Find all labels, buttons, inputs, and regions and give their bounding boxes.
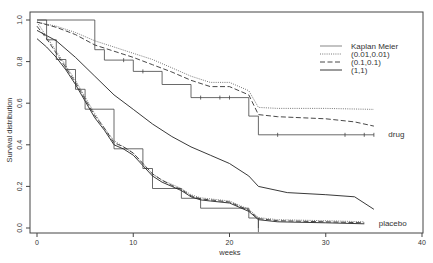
y-tick-label: 1.0 <box>16 15 23 25</box>
annotation-drug: drug <box>388 130 404 139</box>
x-tick-label: 10 <box>129 239 137 246</box>
y-tick-label: 0.4 <box>16 140 23 150</box>
y-axis: 0.00.20.40.60.81.0 <box>16 15 30 233</box>
legend: Kaplan Meier(0.01,0.01)(0.1,0.1)(1,1) <box>320 42 398 75</box>
series-line <box>37 22 364 222</box>
y-tick-label: 0.6 <box>16 98 23 108</box>
series-line <box>37 30 374 209</box>
x-tick-label: 40 <box>418 239 426 246</box>
series-line <box>37 20 258 228</box>
legend-label: (1,1) <box>351 66 368 75</box>
x-tick-label: 0 <box>35 239 39 246</box>
x-tick-label: 20 <box>226 239 234 246</box>
x-axis-title: weeks <box>218 248 241 257</box>
x-axis: 010203040 <box>35 233 426 246</box>
y-tick-label: 0.0 <box>16 223 23 233</box>
series-line <box>37 39 364 224</box>
annotations: drugplacebo <box>379 130 408 227</box>
y-tick-label: 0.2 <box>16 181 23 191</box>
series-line <box>37 26 364 223</box>
series-line <box>37 20 374 135</box>
series-layer <box>37 20 374 232</box>
y-tick-label: 0.8 <box>16 57 23 67</box>
annotation-placebo: placebo <box>379 219 408 228</box>
series-line <box>37 22 374 109</box>
x-tick-label: 30 <box>322 239 330 246</box>
survival-chart: 0.00.20.40.60.81.0 010203040 Survival di… <box>0 0 433 263</box>
y-axis-title: Survival distribution <box>5 97 14 162</box>
